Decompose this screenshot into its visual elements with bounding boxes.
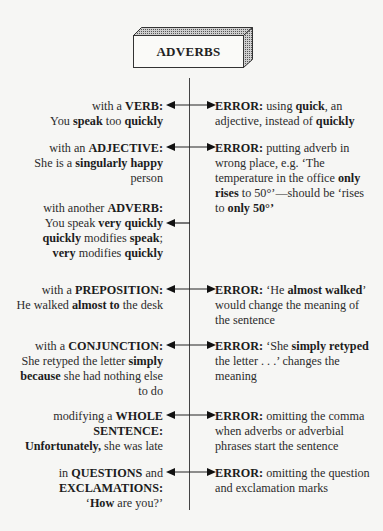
double-arrow-icon: [166, 284, 216, 294]
adjective-usage-line3: person: [3, 171, 163, 186]
whole-sentence-error-line3: phrases start the sentence: [215, 439, 380, 454]
questions-usage-line1: in QUESTIONS and: [3, 466, 163, 481]
title-box: ADVERBS: [133, 35, 244, 68]
double-arrow-icon: [166, 100, 216, 110]
questions-error-line2: and exclamation marks: [215, 481, 380, 496]
cropped-top-text: [90, 0, 130, 2]
diagram-title: ADVERBS: [156, 44, 220, 60]
adjective-error-line2: wrong place, e.g. ‘The: [215, 156, 380, 171]
verb-usage-line1: with a VERB:: [3, 99, 163, 114]
verb-error: ERROR: using quick, an adjective, instea…: [215, 99, 380, 129]
left-arrow-icon: [166, 218, 191, 228]
adverb-usage: with another ADVERB: You speak very quic…: [3, 201, 163, 261]
adjective-usage: with an ADJECTIVE: She is a singularly h…: [3, 141, 163, 186]
conjunction-usage: with a CONJUNCTION: She retyped the lett…: [3, 339, 163, 399]
conjunction-error-line2: the letter . . .’ changes the: [215, 354, 380, 369]
preposition-error-line2: would change the meaning of: [215, 298, 380, 313]
double-arrow-icon: [166, 410, 216, 420]
adverb-usage-line3: quickly modifies speak;: [3, 231, 163, 246]
conjunction-error-line3: meaning: [215, 369, 380, 384]
adjective-usage-line2: She is a singularly happy: [3, 156, 163, 171]
whole-sentence-error-line2: when adverbs or adverbial: [215, 424, 380, 439]
verb-usage: with a VERB: You speak too quickly: [3, 99, 163, 129]
verb-error-line2: adjective, instead of quickly: [215, 114, 380, 129]
conjunction-error: ERROR: ‘She simply retyped the letter . …: [215, 339, 380, 384]
adjective-usage-line1: with an ADJECTIVE:: [3, 141, 163, 156]
whole-sentence-usage-line2: SENTENCE:: [3, 424, 163, 439]
adjective-error: ERROR: putting adverb in wrong place, e.…: [215, 141, 380, 216]
verb-usage-line2: You speak too quickly: [3, 114, 163, 129]
whole-sentence-error-line1: ERROR: omitting the comma: [215, 409, 380, 424]
adjective-error-line3: temperature in the office only: [215, 171, 380, 186]
conjunction-usage-line3: because she had nothing else: [3, 369, 163, 384]
adjective-error-line4: rises to 50°’—should be ‘rises: [215, 186, 380, 201]
conjunction-usage-line1: with a CONJUNCTION:: [3, 339, 163, 354]
double-arrow-icon: [166, 142, 216, 152]
whole-sentence-usage-line3: Unfortunately, she was late: [3, 439, 163, 454]
adverb-usage-line1: with another ADVERB:: [3, 201, 163, 216]
double-arrow-icon: [166, 340, 216, 350]
questions-usage: in QUESTIONS and EXCLAMATIONS: ‘How are …: [3, 466, 163, 511]
preposition-error-line3: the sentence: [215, 313, 380, 328]
conjunction-error-line1: ERROR: ‘She simply retyped: [215, 339, 380, 354]
whole-sentence-usage: modifying a WHOLE SENTENCE: Unfortunatel…: [3, 409, 163, 454]
questions-error: ERROR: omitting the question and exclama…: [215, 466, 380, 496]
box-right-bevel: [243, 27, 253, 68]
questions-usage-line2: EXCLAMATIONS:: [3, 481, 163, 496]
whole-sentence-error: ERROR: omitting the comma when adverbs o…: [215, 409, 380, 454]
adverb-usage-line4: very modifies quickly: [3, 246, 163, 261]
adjective-error-line1: ERROR: putting adverb in: [215, 141, 380, 156]
preposition-error-line1: ERROR: ‘He almost walked’: [215, 283, 380, 298]
preposition-usage-line2: He walked almost to the desk: [3, 298, 163, 313]
adverb-usage-line2: You speak very quickly: [3, 216, 163, 231]
conjunction-usage-line4: to do: [3, 384, 163, 399]
verb-error-line1: ERROR: using quick, an: [215, 99, 380, 114]
questions-usage-line3: ‘How are you?’: [3, 496, 163, 511]
preposition-error: ERROR: ‘He almost walked’ would change t…: [215, 283, 380, 328]
double-arrow-icon: [166, 467, 216, 477]
whole-sentence-usage-line1: modifying a WHOLE: [3, 409, 163, 424]
questions-error-line1: ERROR: omitting the question: [215, 466, 380, 481]
preposition-usage: with a PREPOSITION: He walked almost to …: [3, 283, 163, 313]
preposition-usage-line1: with a PREPOSITION:: [3, 283, 163, 298]
adjective-error-line5: to only 50°’: [215, 201, 380, 216]
conjunction-usage-line2: She retyped the letter simply: [3, 354, 163, 369]
